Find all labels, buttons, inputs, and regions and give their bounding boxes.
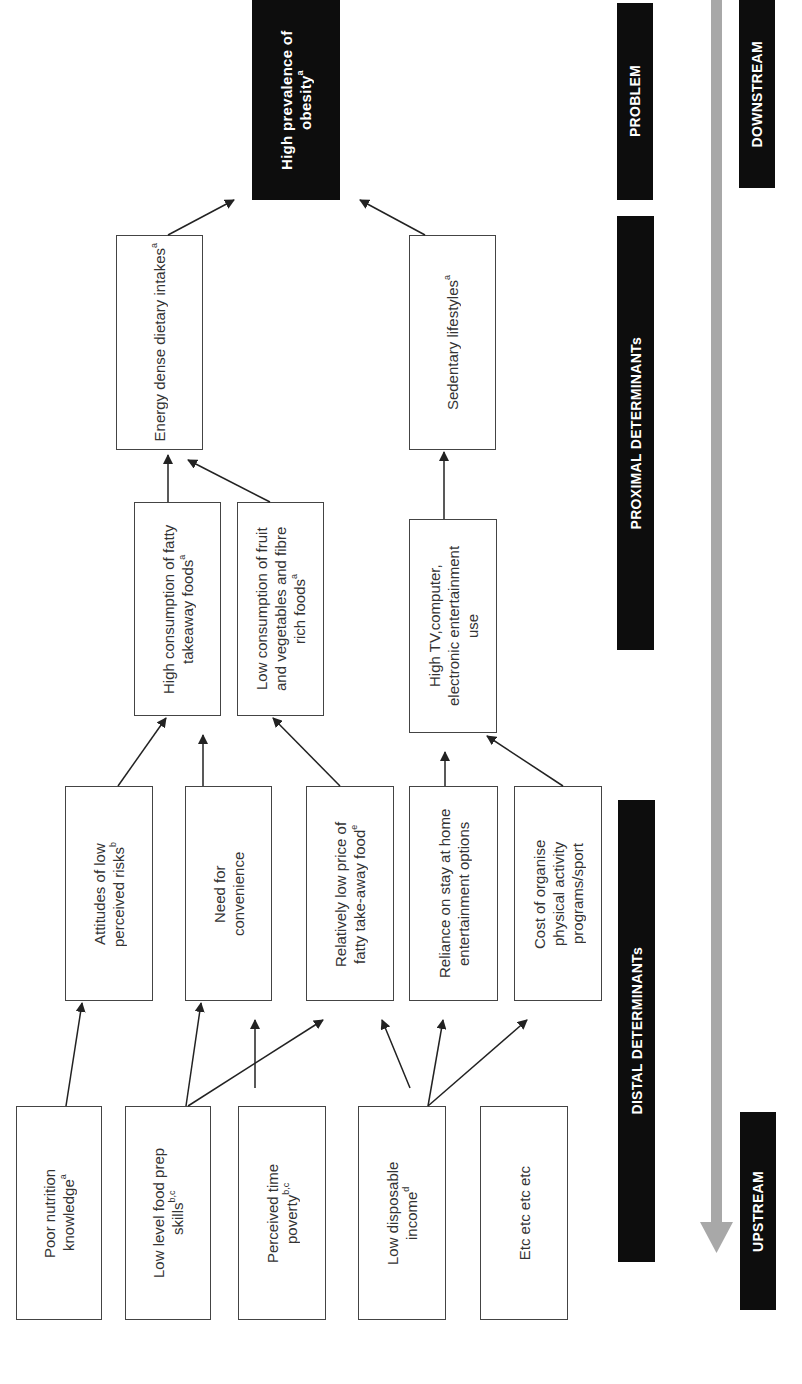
arrow-attitudes-to-fatty (118, 718, 166, 786)
arrow-sedentary-to-problem (360, 200, 425, 235)
arrow-income-to-reliance (428, 1020, 443, 1106)
arrow-income-to-cost (428, 1020, 527, 1106)
arrow-nutrition-to-attitudes (66, 1003, 82, 1106)
arrow-income-to-price (382, 1020, 410, 1088)
arrow-cost-to-tv (487, 736, 563, 786)
connector-arrows (0, 0, 802, 1384)
arrow-foodprep-to-convenience (186, 1003, 201, 1106)
arrow-fruit-to-energy (188, 460, 270, 502)
gray-stream-arrow (700, 0, 733, 1253)
arrow-energy-to-problem (168, 200, 234, 235)
arrow-price-to-fruit (273, 718, 340, 786)
